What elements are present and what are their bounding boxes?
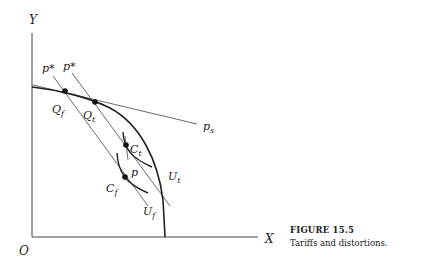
p-label: p (131, 166, 138, 179)
ut-label: Ut (168, 170, 181, 185)
world-price-label-1: p* (42, 62, 55, 75)
point-ct (123, 142, 129, 148)
figure-caption-text: Tariffs and distortions. (290, 238, 388, 248)
figure-caption-title: FIGURE 15.5 (290, 225, 354, 235)
world-price-label-2: p* (63, 60, 76, 73)
y-axis-label: Y (29, 13, 38, 27)
ct-label: Ct (130, 143, 142, 158)
tariff-diagram: Y X O p* p* ps Qf Qt Ct Cf p Ut Uf (0, 0, 424, 266)
uf-label: Uf (143, 205, 157, 220)
domestic-price-label: ps (203, 120, 214, 135)
point-qf (62, 88, 68, 94)
cf-label: Cf (106, 182, 119, 197)
point-cf (122, 174, 128, 180)
point-qt (92, 99, 98, 105)
world-price-line-free-trade (53, 76, 148, 206)
qf-label: Qf (52, 103, 66, 118)
world-price-line-tariff (72, 73, 170, 206)
origin-label: O (19, 244, 29, 258)
qt-label: Qt (83, 109, 96, 124)
x-axis-label: X (264, 232, 274, 246)
